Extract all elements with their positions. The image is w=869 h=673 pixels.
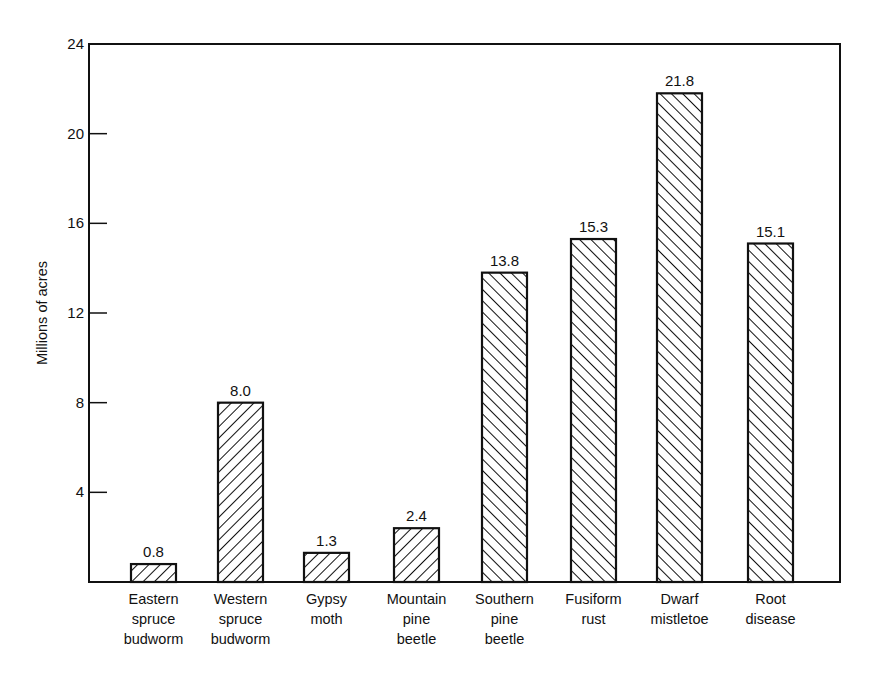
- y-tick-label: 12: [67, 304, 84, 321]
- y-tick-label: 8: [76, 394, 84, 411]
- x-axis-labels: EasternsprucebudwormWesternsprucebudworm…: [124, 591, 796, 647]
- bar-group: 1.3: [304, 532, 349, 582]
- y-tick-label: 20: [67, 125, 84, 142]
- bar: [657, 93, 702, 582]
- bar-value-label: 8.0: [230, 382, 251, 399]
- x-category-label-line: mistletoe: [650, 611, 708, 627]
- y-axis: 4812162024: [67, 35, 107, 500]
- x-category-label-line: Gypsy: [306, 591, 348, 607]
- x-category-label-line: spruce: [132, 611, 176, 627]
- bar: [131, 564, 176, 582]
- x-category-label-line: beetle: [485, 631, 525, 647]
- x-category-label-line: budworm: [124, 631, 184, 647]
- x-category-label-line: Fusiform: [565, 591, 621, 607]
- x-category-label-line: rust: [581, 611, 605, 627]
- bar: [571, 239, 616, 582]
- bar-group: 0.8: [131, 543, 176, 582]
- bar-group: 15.3: [571, 218, 616, 582]
- bar: [304, 553, 349, 582]
- bar-group: 15.1: [748, 223, 793, 582]
- x-category-label-line: spruce: [219, 611, 263, 627]
- bar-value-label: 0.8: [143, 543, 164, 560]
- bar: [394, 528, 439, 582]
- x-category-label: Southernpinebeetle: [475, 591, 534, 647]
- bar: [748, 244, 793, 582]
- x-category-label: Rootdisease: [746, 591, 796, 627]
- bar-group: 2.4: [394, 507, 439, 582]
- x-category-label: Mountainpinebeetle: [387, 591, 447, 647]
- x-category-label-line: beetle: [397, 631, 437, 647]
- bar-group: 21.8: [657, 72, 702, 582]
- x-category-label-line: Dwarf: [661, 591, 700, 607]
- bar-group: 8.0: [218, 382, 263, 582]
- bar-chart: 4812162024 Millions of acres 0.88.01.32.…: [0, 0, 869, 673]
- bar: [218, 403, 263, 582]
- bar-value-label: 13.8: [490, 252, 519, 269]
- x-category-label-line: Eastern: [129, 591, 179, 607]
- bars: 0.88.01.32.413.815.321.815.1: [131, 72, 793, 582]
- x-category-label: Westernsprucebudworm: [211, 591, 271, 647]
- x-category-label-line: disease: [746, 611, 796, 627]
- x-category-label: Gypsymoth: [306, 591, 348, 627]
- bar-value-label: 15.1: [756, 223, 785, 240]
- bar-value-label: 21.8: [665, 72, 694, 89]
- x-category-label-line: Western: [214, 591, 268, 607]
- x-category-label: Easternsprucebudworm: [124, 591, 184, 647]
- x-category-label: Fusiformrust: [565, 591, 621, 627]
- y-tick-label: 24: [67, 35, 84, 52]
- x-category-label-line: pine: [491, 611, 518, 627]
- bar-group: 13.8: [482, 252, 527, 582]
- x-category-label-line: Mountain: [387, 591, 447, 607]
- x-category-label-line: Root: [755, 591, 786, 607]
- x-category-label-line: pine: [403, 611, 430, 627]
- y-axis-title: Millions of acres: [34, 261, 50, 365]
- bar-value-label: 2.4: [406, 507, 427, 524]
- plot-frame: [89, 44, 840, 582]
- x-category-label-line: moth: [310, 611, 342, 627]
- y-tick-label: 4: [76, 483, 84, 500]
- bar-value-label: 1.3: [316, 532, 337, 549]
- y-tick-label: 16: [67, 214, 84, 231]
- bar-value-label: 15.3: [579, 218, 608, 235]
- x-category-label: Dwarfmistletoe: [650, 591, 708, 627]
- x-category-label-line: budworm: [211, 631, 271, 647]
- bar: [482, 273, 527, 582]
- x-category-label-line: Southern: [475, 591, 534, 607]
